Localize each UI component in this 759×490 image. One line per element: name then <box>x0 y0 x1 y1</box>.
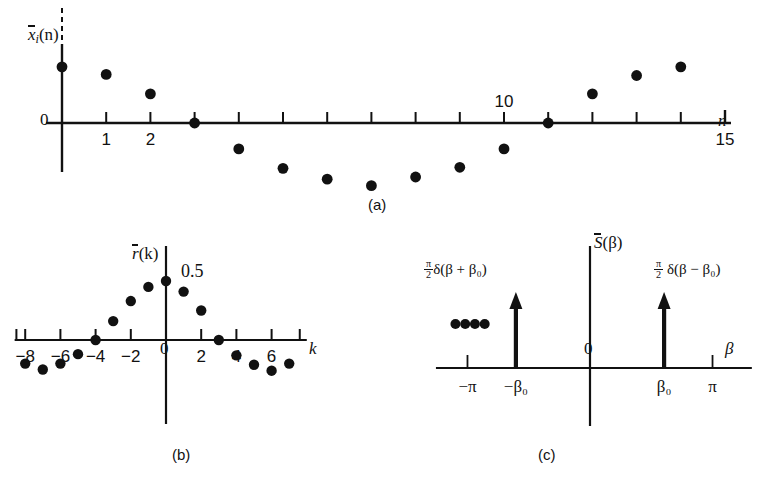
panel-a-data-point <box>101 69 112 80</box>
panel-a-data-point <box>145 88 156 99</box>
panel-b-data-point <box>143 282 153 292</box>
panel-c-y-axis-label-arg: (β) <box>603 233 623 252</box>
panel-b-data-point <box>231 350 241 360</box>
panel-a-data-point <box>278 163 289 174</box>
panel-c-y-axis-label-base: S <box>594 234 603 251</box>
panel-b-x-tick-label: −4 <box>86 347 105 366</box>
panel-b-data-point <box>38 364 48 374</box>
panel-a-data-point <box>499 144 510 155</box>
panel-b-data-point <box>178 286 188 296</box>
panel-b-x-tick-label: −2 <box>121 347 140 366</box>
panel-b-y-axis-label-base: r <box>132 245 139 262</box>
panel-c-x-tick-label: −β₀ <box>504 377 528 396</box>
panel-c-plot: −π−β₀β₀π <box>380 222 759 452</box>
panel-a-x-tick-label: 10 <box>495 92 514 111</box>
panel-a-data-point <box>233 144 244 155</box>
panel-b-data-point <box>249 360 259 370</box>
panel-a-data-point <box>675 61 686 72</box>
panel-a-y-axis-label-base: x <box>28 26 36 43</box>
panel-b-x-tick-label: 2 <box>196 347 205 366</box>
panel-b-y-axis-label: r(k) <box>132 245 158 262</box>
panel-b-data-point <box>161 276 171 286</box>
panel-a-data-point <box>631 70 642 81</box>
panel-a-x-tick-label: 1 <box>101 130 110 149</box>
panel-b-data-point <box>73 349 83 359</box>
panel-c-x-axis-label: β <box>725 340 733 357</box>
panel-c-continuation-dot <box>450 319 460 329</box>
panel-b-x-tick-label: 6 <box>267 347 276 366</box>
panel-b-data-point <box>108 316 118 326</box>
panel-a-plot: 121015 <box>0 0 759 215</box>
panel-c-origin-label: 0 <box>584 340 593 357</box>
panel-c-left-impulse-coefficient: π2 <box>424 259 433 281</box>
panel-a-data-point <box>322 174 333 185</box>
panel-c-y-axis-label: S(β) <box>594 234 622 251</box>
panel-c-continuation-dot <box>460 319 470 329</box>
panel-a-origin-label: 0 <box>40 111 49 128</box>
panel-c-impulse-arrow-head <box>658 292 671 309</box>
panel-c-x-tick-label: π <box>708 377 717 396</box>
panel-a-data-point <box>543 118 554 129</box>
panel-c-continuation-dot <box>470 319 480 329</box>
panel-c-right-impulse-body: δ(β − β₀) <box>667 261 721 277</box>
panel-a-x-tick-label: 15 <box>716 130 735 149</box>
panel-c-impulse-arrow-head <box>509 292 522 309</box>
figure-root: 121015 xi(n) 0 n (a) −8−6−4−2246 r(k) 0.… <box>0 0 759 490</box>
panel-c-right-impulse-label: π2 δ(β − β₀) <box>654 259 720 281</box>
panel-b-data-point <box>90 335 100 345</box>
panel-c-x-tick-label: −π <box>458 377 477 396</box>
panel-b-data-point <box>20 358 30 368</box>
panel-b-data-point <box>126 296 136 306</box>
panel-a-x-axis-label: n <box>718 112 727 129</box>
panel-b-plot: −8−6−4−2246 <box>0 222 380 452</box>
panel-b-data-point <box>214 335 224 345</box>
panel-b-data-point <box>55 358 65 368</box>
panel-a-data-point <box>587 88 598 99</box>
panel-a-data-point <box>366 180 377 191</box>
panel-b-caption: (b) <box>172 446 190 463</box>
panel-b-peak-label: 0.5 <box>181 262 204 280</box>
panel-b-data-point <box>196 305 206 315</box>
panel-b-y-axis-label-arg: (k) <box>139 244 159 263</box>
panel-c-right-impulse-coefficient: π2 <box>654 259 663 281</box>
panel-a-data-point <box>410 172 421 183</box>
panel-a-data-point <box>57 61 68 72</box>
panel-a-x-tick-label: 2 <box>146 130 155 149</box>
panel-a-y-axis-label-arg: (n) <box>39 25 59 44</box>
panel-b-x-axis-label: k <box>309 340 317 357</box>
panel-c-left-impulse-label: π2δ(β + β₀) <box>424 259 487 281</box>
panel-c-left-impulse-body: δ(β + β₀) <box>433 261 487 277</box>
panel-a-caption: (a) <box>368 196 386 213</box>
panel-a-data-point <box>189 118 200 129</box>
panel-c-continuation-dot <box>480 319 490 329</box>
panel-b-data-point <box>266 365 276 375</box>
panel-a-y-axis-label: xi(n) <box>28 26 59 46</box>
panel-c-x-tick-label: β₀ <box>657 377 672 396</box>
panel-b-origin-label: 0 <box>160 340 169 357</box>
panel-c-caption: (c) <box>538 446 556 463</box>
panel-b-data-point <box>284 358 294 368</box>
panel-a-data-point <box>454 162 465 173</box>
